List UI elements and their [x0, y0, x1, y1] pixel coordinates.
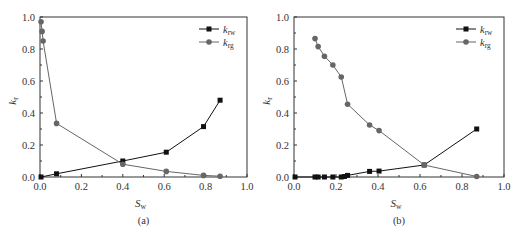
data-point-circle — [345, 101, 351, 107]
data-point-circle — [217, 173, 223, 179]
x-tick-label: 0.4 — [116, 181, 130, 192]
data-point-square — [330, 175, 335, 180]
legend-marker-square — [464, 27, 469, 32]
y-tick-label: 1.0 — [22, 12, 35, 23]
series-k-rw — [293, 127, 480, 180]
legend-marker-circle — [463, 39, 469, 45]
data-point-square — [164, 150, 169, 155]
series-k-rg — [38, 19, 223, 179]
x-tick-label: 0.2 — [329, 181, 342, 192]
data-point-square — [474, 127, 479, 132]
legend: krwkrg — [199, 24, 236, 50]
data-point-square — [367, 169, 372, 174]
x-tick-label: 0.4 — [371, 181, 385, 192]
data-point-square — [293, 175, 298, 180]
x-axis-label: Sw — [135, 197, 147, 211]
data-point-circle — [367, 122, 373, 128]
label-sub: w — [396, 202, 402, 211]
y-tick-label: 0.8 — [276, 44, 289, 55]
legend-label-k-rg: krg — [480, 37, 491, 50]
legend-marker-square — [207, 27, 212, 32]
y-tick-label: 0.6 — [22, 76, 35, 87]
label-sub: r — [11, 97, 20, 100]
data-point-circle — [474, 174, 480, 180]
x-tick-label: 1.0 — [497, 181, 510, 192]
label-sub: rg — [485, 41, 491, 50]
data-point-circle — [338, 74, 344, 80]
panel-label: (b) — [393, 215, 406, 227]
y-tick-label: 0.2 — [276, 140, 289, 151]
data-point-circle — [322, 53, 328, 59]
x-axis-label: Sw — [390, 197, 402, 211]
data-point-circle — [163, 169, 169, 175]
data-point-circle — [54, 121, 60, 127]
legend-label-k-rw: krw — [223, 24, 236, 37]
data-point-square — [218, 98, 223, 103]
data-point-square — [377, 169, 382, 174]
legend-marker-circle — [206, 39, 212, 45]
data-point-circle — [120, 161, 126, 167]
data-point-circle — [330, 62, 336, 68]
y-tick-label: 0.6 — [276, 76, 289, 87]
data-point-square — [316, 175, 321, 180]
x-tick-label: 0.0 — [33, 181, 46, 192]
x-tick-label: 1.0 — [240, 181, 253, 192]
series-k-rw — [39, 98, 223, 180]
data-point-square — [39, 175, 44, 180]
legend: krwkrg — [456, 24, 493, 50]
y-tick-label: 1.0 — [276, 12, 289, 23]
series-line — [315, 39, 477, 177]
chart-panel-a: 0.00.20.40.60.81.00.00.20.40.60.81.0Swkr… — [0, 0, 261, 230]
legend-label-k-rg: krg — [223, 37, 234, 50]
plot-frame — [40, 17, 247, 177]
y-tick-label: 0.2 — [22, 140, 35, 151]
data-point-circle — [40, 38, 46, 44]
y-tick-label: 0.0 — [22, 172, 35, 183]
data-point-circle — [312, 36, 318, 42]
y-tick-label: 0.0 — [276, 172, 289, 183]
data-point-square — [201, 124, 206, 129]
data-point-circle — [39, 29, 45, 35]
label-sub: rw — [228, 28, 236, 37]
chart-a: 0.00.20.40.60.81.00.00.20.40.60.81.0Swkr… — [0, 0, 261, 230]
label-sub: r — [265, 97, 274, 100]
data-point-square — [322, 175, 327, 180]
data-point-square — [345, 173, 350, 178]
data-point-square — [54, 171, 59, 176]
series-k-rg — [312, 36, 479, 180]
x-tick-label: 0.0 — [287, 181, 300, 192]
chart-panel-b: 0.00.20.40.60.81.00.00.20.40.60.81.0Swkr… — [261, 0, 522, 230]
panel-label: (a) — [138, 215, 150, 227]
legend-label-k-rw: krw — [480, 24, 493, 37]
x-tick-label: 0.8 — [455, 181, 468, 192]
data-point-circle — [201, 173, 207, 179]
y-tick-label: 0.4 — [22, 108, 36, 119]
y-axis-label: kr — [261, 97, 274, 105]
svg-text:kr: kr — [261, 97, 274, 105]
label-sub: w — [140, 202, 146, 211]
series-line — [41, 22, 220, 176]
svg-text:kr: kr — [6, 97, 20, 105]
data-point-circle — [421, 162, 427, 168]
data-point-circle — [376, 128, 382, 134]
y-tick-label: 0.8 — [22, 44, 35, 55]
x-tick-label: 0.8 — [199, 181, 212, 192]
chart-b: 0.00.20.40.60.81.00.00.20.40.60.81.0Swkr… — [261, 0, 522, 230]
y-tick-label: 0.4 — [276, 108, 290, 119]
x-tick-label: 0.6 — [413, 181, 426, 192]
x-tick-label: 0.6 — [158, 181, 171, 192]
label-sub: rw — [485, 28, 493, 37]
label-sub: rg — [228, 41, 234, 50]
y-axis-label: kr — [6, 97, 20, 105]
x-tick-label: 0.2 — [75, 181, 88, 192]
data-point-circle — [315, 44, 321, 50]
plot-frame — [294, 17, 504, 177]
data-point-circle — [38, 19, 44, 25]
